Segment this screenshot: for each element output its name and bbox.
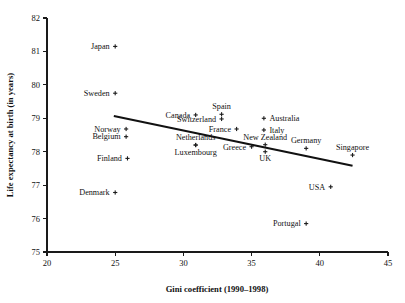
data-point-label: Sweden (84, 89, 110, 98)
data-point-marker (304, 146, 308, 150)
data-point-marker (113, 44, 117, 48)
data-point-label: Greece (223, 143, 247, 152)
data-point-label: USA (309, 183, 325, 192)
data-point-marker (304, 221, 308, 225)
scatter-chart: 7576777879808182202530354045 JapanSweden… (0, 0, 405, 303)
data-point-marker (124, 135, 128, 139)
y-tick-label: 78 (32, 147, 41, 157)
data-point-marker (113, 190, 117, 194)
data-points (113, 44, 355, 225)
data-point-label: Spain (212, 102, 231, 111)
data-point-label: Japan (91, 42, 110, 51)
x-tick-label: 40 (316, 258, 325, 268)
data-point-label: Luxembourg (175, 148, 217, 157)
plot-canvas: 7576777879808182202530354045 JapanSweden… (0, 0, 405, 303)
y-tick-label: 75 (32, 247, 41, 257)
data-point-label: Australia (269, 114, 299, 123)
data-point-marker (125, 156, 129, 160)
x-tick-label: 20 (43, 258, 52, 268)
data-point-marker (234, 127, 238, 131)
data-point-label: New Zealand (243, 133, 287, 142)
x-tick-label: 35 (247, 258, 256, 268)
data-point-marker (262, 116, 266, 120)
data-point-marker (124, 127, 128, 131)
data-point-label: Denmark (79, 188, 110, 197)
data-point-marker (219, 117, 223, 121)
data-point-label: Netherlands (176, 133, 216, 142)
y-tick-label: 77 (32, 180, 41, 190)
data-point-label: Germany (291, 136, 322, 145)
data-point-label: Switzerland (177, 115, 216, 124)
y-tick-label: 80 (32, 80, 41, 90)
y-tick-label: 81 (32, 46, 41, 56)
y-tick-label: 76 (32, 214, 41, 224)
x-tick-label: 30 (179, 258, 188, 268)
data-point-label: Finland (97, 154, 122, 163)
y-tick-label: 82 (32, 13, 41, 23)
data-point-marker (329, 185, 333, 189)
x-tick-label: 45 (384, 258, 393, 268)
data-point-label: Belgium (92, 132, 121, 141)
data-point-marker (262, 128, 266, 132)
data-point-marker (194, 143, 198, 147)
data-point-label: UK (259, 154, 271, 163)
x-axis-title: Gini coefficient (1990–1998) (166, 284, 269, 294)
data-point-label: Singapore (336, 143, 370, 152)
data-point-marker (219, 112, 223, 116)
x-tick-label: 25 (111, 258, 120, 268)
data-point-label: Portugal (273, 219, 301, 228)
data-point-labels: JapanSwedenCanadaSpainSwitzerlandAustral… (79, 42, 369, 228)
data-point-marker (263, 150, 267, 154)
data-point-marker (350, 153, 354, 157)
y-tick-label: 79 (32, 113, 41, 123)
y-axis-title: Life expectancy at birth (in years) (5, 73, 15, 197)
data-point-marker (113, 91, 117, 95)
